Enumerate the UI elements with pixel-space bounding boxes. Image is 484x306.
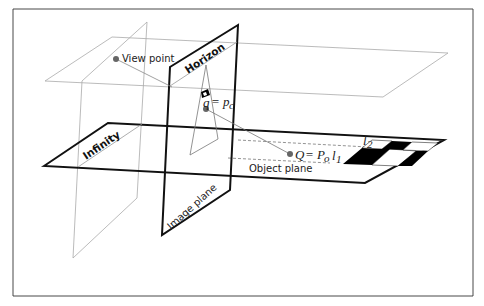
Q-label: Q	[295, 147, 305, 162]
object-plane-label: Object plane	[249, 163, 313, 174]
Q-rhs-label: = P	[305, 147, 325, 162]
view-point-label: View point	[122, 53, 174, 64]
l2-sub-label: 2	[367, 138, 373, 150]
dashed-line-l2	[238, 140, 368, 147]
perspective-diagram: View point Horizon Infinity Image plane …	[0, 0, 484, 306]
q-label: q	[203, 95, 210, 110]
viewpoint-dot	[113, 56, 119, 62]
l1-sub-label: 1	[336, 153, 342, 165]
image-plane-label: Image plane	[165, 182, 219, 232]
q-sub-label: c	[229, 99, 234, 111]
q-rhs-label: = p	[211, 94, 230, 109]
upper-plane	[45, 37, 448, 97]
Q-sub-label: o	[324, 152, 330, 164]
vanishing-base	[190, 139, 218, 155]
infinity-label: Infinity	[80, 128, 122, 162]
Q-point-dot	[287, 151, 293, 157]
checkerboard	[330, 140, 438, 176]
